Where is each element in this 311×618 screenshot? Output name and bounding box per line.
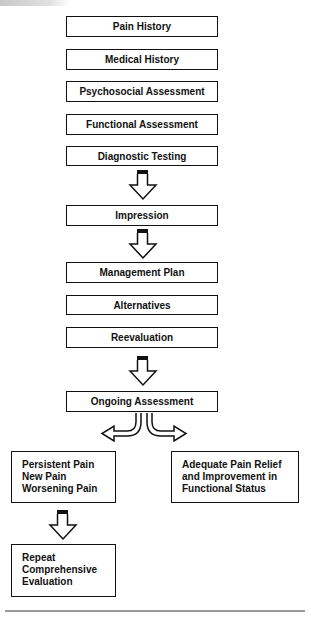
box-line: and Improvement in — [182, 471, 298, 483]
box-label: Pain History — [113, 21, 171, 32]
box-label: Impression — [115, 210, 168, 221]
box-line: Worsening Pain — [22, 483, 115, 495]
box-label: Alternatives — [113, 300, 170, 311]
box-management-plan: Management Plan — [66, 262, 218, 283]
box-adequate-pain-relief: Adequate Pain Relief and Improvement in … — [171, 451, 299, 503]
box-diagnostic-testing: Diagnostic Testing — [66, 146, 218, 166]
box-line: Comprehensive — [22, 564, 115, 576]
box-label: Reevaluation — [111, 332, 173, 343]
box-line: Adequate Pain Relief — [182, 459, 298, 471]
box-alternatives: Alternatives — [66, 295, 218, 315]
box-repeat-comprehensive-evaluation: Repeat Comprehensive Evaluation — [11, 544, 116, 597]
box-persistent-pain: Persistent Pain New Pain Worsening Pain — [11, 451, 116, 503]
box-line: Evaluation — [22, 576, 115, 588]
box-line: Repeat — [22, 552, 115, 564]
box-functional-assessment: Functional Assessment — [66, 114, 218, 135]
box-label: Functional Assessment — [86, 119, 198, 130]
box-psychosocial-assessment: Psychosocial Assessment — [66, 81, 218, 102]
box-medical-history: Medical History — [66, 49, 218, 70]
box-label: Management Plan — [99, 267, 184, 278]
curved-split-arrows-icon — [98, 412, 190, 442]
down-arrow-icon — [128, 228, 158, 260]
box-label: Diagnostic Testing — [98, 151, 187, 162]
box-pain-history: Pain History — [66, 16, 218, 37]
box-ongoing-assessment: Ongoing Assessment — [66, 391, 218, 412]
box-label: Medical History — [105, 54, 179, 65]
box-label: Ongoing Assessment — [91, 396, 193, 407]
top-gradient-bar — [0, 0, 70, 6]
box-line: New Pain — [22, 471, 115, 483]
box-line: Functional Status — [182, 483, 298, 495]
down-arrow-icon — [48, 509, 78, 541]
bottom-rule — [5, 610, 305, 612]
box-impression: Impression — [66, 205, 218, 226]
down-arrow-icon — [128, 169, 158, 201]
down-arrow-icon — [128, 355, 158, 387]
box-reevaluation: Reevaluation — [66, 327, 218, 348]
box-line: Persistent Pain — [22, 459, 115, 471]
box-label: Psychosocial Assessment — [79, 86, 204, 97]
